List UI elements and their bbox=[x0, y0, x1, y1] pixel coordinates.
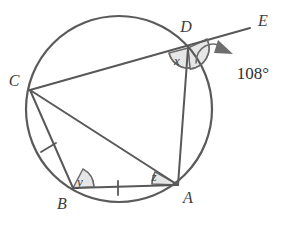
point-label-C: C bbox=[9, 72, 20, 89]
geometry-figure: C D A B E x y z 108° bbox=[0, 0, 293, 229]
diagram-root: C D A B E x y z 108° bbox=[0, 0, 293, 229]
angle-label-x: x bbox=[173, 53, 180, 68]
segment-C-E bbox=[30, 28, 250, 90]
tick-segment-CB bbox=[41, 143, 56, 152]
angle-indicator-arrow-head bbox=[214, 40, 233, 54]
point-label-E: E bbox=[257, 12, 268, 29]
angle-label-y: y bbox=[75, 174, 83, 189]
point-label-D: D bbox=[179, 18, 192, 35]
angle-label-z: z bbox=[150, 169, 156, 184]
angle-label-exterior-108: 108° bbox=[237, 64, 269, 83]
point-label-B: B bbox=[57, 195, 67, 212]
point-label-A: A bbox=[182, 189, 193, 206]
